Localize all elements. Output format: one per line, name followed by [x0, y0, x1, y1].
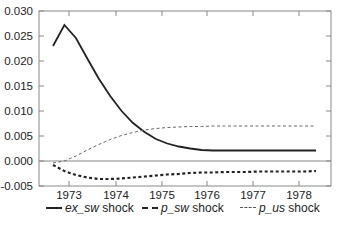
thin-dash-swatch-icon: [240, 207, 256, 208]
y-tick-label: -0.005: [0, 180, 33, 192]
impulse-response-chart: -0.0050.0000.0050.0100.0150.0200.0250.03…: [0, 0, 339, 200]
x-tick-label: 1975: [149, 189, 175, 200]
x-tick-label: 1973: [56, 189, 82, 200]
x-tick-label: 1978: [286, 189, 312, 200]
solid-line-swatch-icon: [46, 207, 62, 209]
series-ex-sw-shock: [53, 25, 316, 151]
plot-lines: [53, 25, 316, 179]
x-tick-label: 1974: [103, 189, 129, 200]
legend: ex_sw shock p_sw shock p_us shock: [0, 201, 339, 217]
series-p-sw-shock: [53, 165, 316, 179]
x-tick-label: 1976: [194, 189, 220, 200]
y-tick-label: 0.025: [4, 30, 33, 42]
y-tick-label: 0.020: [4, 55, 33, 67]
plot-frame: [39, 11, 331, 186]
legend-item-p-us: p_us shock: [240, 201, 320, 215]
y-tick-label: 0.015: [4, 80, 33, 92]
bold-dash-swatch-icon: [142, 207, 158, 209]
y-tick-label: 0.005: [4, 130, 33, 142]
legend-item-p-sw: p_sw shock: [142, 201, 224, 215]
y-tick-label: 0.000: [4, 155, 33, 167]
y-tick-label: 0.010: [4, 105, 33, 117]
series-p-us-shock: [53, 126, 316, 163]
legend-item-ex-sw: ex_sw shock: [46, 201, 134, 215]
x-tick-label: 1977: [240, 189, 266, 200]
y-tick-label: 0.030: [4, 5, 33, 17]
